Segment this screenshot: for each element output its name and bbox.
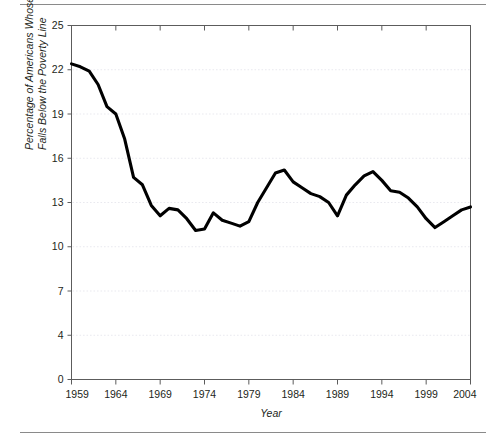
- y-tick-label: 10: [52, 240, 64, 252]
- x-axis-title: Year: [260, 407, 282, 419]
- x-tick-label: 1989: [326, 388, 350, 400]
- y-tick-label: 0: [58, 373, 64, 385]
- x-tick-label: 1974: [193, 388, 217, 400]
- y-axis-ticks-group: [68, 26, 72, 380]
- x-axis-top-ticks-group: [116, 26, 426, 31]
- x-tick-label: 1964: [104, 388, 128, 400]
- y-tick-label: 22: [52, 63, 64, 75]
- poverty-rate-line: [72, 64, 471, 231]
- x-tick-label: 1979: [237, 388, 261, 400]
- x-tick-label: 1994: [370, 388, 394, 400]
- x-tick-label: 1984: [281, 388, 305, 400]
- x-tick-label: 1999: [414, 388, 438, 400]
- x-tick-label: 1969: [148, 388, 172, 400]
- y-tick-label: 19: [52, 108, 64, 120]
- y-tick-label: 7: [58, 285, 64, 297]
- gridlines-group: [73, 70, 470, 336]
- x-axis-tick-labels-group: 1959196419691974197919841989199419992004: [66, 388, 477, 400]
- y-tick-label: 13: [52, 196, 64, 208]
- x-axis-bottom-ticks-group: [72, 380, 471, 385]
- x-tick-label: 1959: [66, 388, 90, 400]
- y-axis-title-line2: Falls Below the Poverty Line: [36, 17, 48, 150]
- figure: 047101316192225 195919641969197419791984…: [0, 0, 502, 445]
- y-axis-title-line1: Percentage of Americans Whose Income: [23, 0, 35, 150]
- x-tick-label: 2004: [453, 388, 477, 400]
- y-tick-label: 25: [52, 19, 64, 31]
- y-tick-label: 16: [52, 152, 64, 164]
- line-chart-svg: 047101316192225 195919641969197419791984…: [0, 0, 502, 445]
- plot-frame: [72, 26, 471, 380]
- y-tick-label: 4: [58, 329, 64, 341]
- chart-plot-area: 047101316192225 195919641969197419791984…: [0, 0, 502, 445]
- y-axis-tick-labels-group: 047101316192225: [52, 19, 64, 385]
